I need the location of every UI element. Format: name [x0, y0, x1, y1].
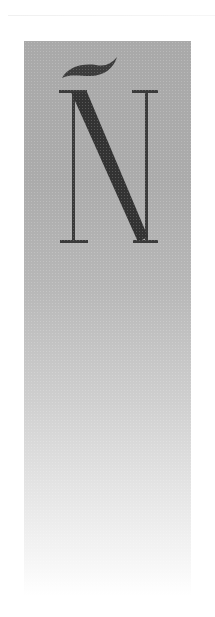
letter-panel: Ñ: [24, 41, 191, 596]
top-divider: [8, 15, 215, 16]
n-tilde-glyph-icon: [24, 41, 191, 281]
